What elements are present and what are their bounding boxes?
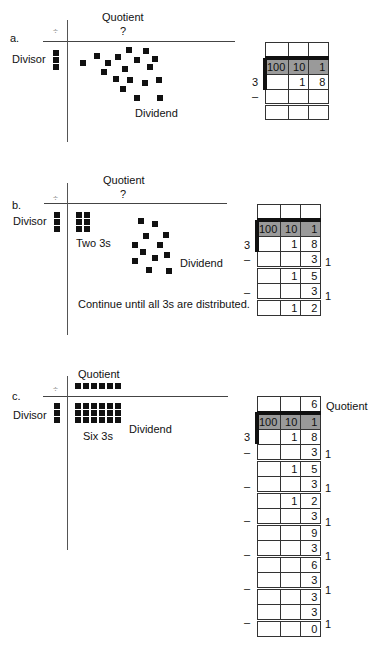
side-count: 1 <box>325 290 331 302</box>
division-bracket <box>263 58 267 90</box>
instruction-note: Continue until all 3s are distributed. <box>78 298 250 310</box>
divisor-label: Divisor <box>12 53 46 65</box>
panel-label-a: a. <box>10 32 19 44</box>
place-value-table: 6 100101 18 3 15 3 12 3 9 3 6 3 3 3 0 <box>257 396 321 637</box>
quotient-value: ? <box>120 25 126 37</box>
table-divisor: 3 <box>244 239 250 251</box>
dividend-label: Dividend <box>129 423 172 435</box>
side-count: 1 <box>325 256 331 268</box>
table-divisor: 3 <box>252 76 258 88</box>
vertical-axis <box>67 183 68 335</box>
divisor-square <box>53 50 59 56</box>
quotient-label: Quotient <box>78 368 120 380</box>
divide-icon: ÷ <box>53 193 58 203</box>
minus-sign: – <box>252 90 258 102</box>
division-bracket <box>255 220 259 252</box>
vertical-axis <box>67 20 68 142</box>
quotient-side-label: Quotient <box>326 400 368 412</box>
quotient-label: Quotient <box>103 174 145 186</box>
divisor-label: Divisor <box>13 409 47 421</box>
group-label: Six 3s <box>83 430 113 442</box>
divisor-square <box>53 64 59 70</box>
place-value-table: 100101 18 <box>265 42 329 120</box>
divisor-square <box>53 57 59 63</box>
minus-sign: – <box>244 253 250 265</box>
division-bracket <box>255 412 259 444</box>
dividend-label: Dividend <box>135 107 178 119</box>
vertical-axis <box>67 376 68 550</box>
horizontal-axis <box>43 396 228 397</box>
divisor-label: Divisor <box>13 215 47 227</box>
dividend-label: Dividend <box>180 257 223 269</box>
place-value-table: 100101 18 3 15 3 12 <box>257 204 321 316</box>
table-divisor: 3 <box>244 431 250 443</box>
divide-icon: ÷ <box>53 26 58 36</box>
group-label: Two 3s <box>76 237 111 249</box>
horizontal-axis <box>44 203 227 204</box>
panel-label-b: b. <box>12 199 21 211</box>
quotient-value: ? <box>120 188 126 200</box>
quotient-label: Quotient <box>102 11 144 23</box>
panel-label-c: c. <box>12 390 21 402</box>
horizontal-axis <box>43 41 235 42</box>
divide-icon: ÷ <box>53 384 58 394</box>
minus-sign: – <box>244 286 250 298</box>
